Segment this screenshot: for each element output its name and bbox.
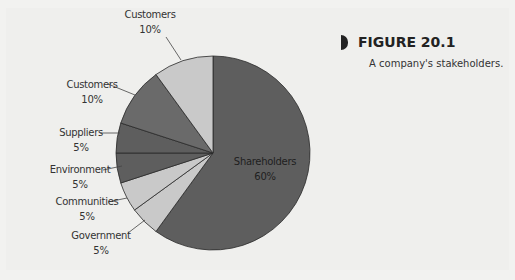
label-name: Customers (120, 7, 180, 22)
label-communities: Communities 5% (52, 194, 122, 224)
label-name: Customers (62, 77, 122, 92)
label-environment: Environment 5% (45, 162, 115, 192)
label-government: Government 5% (66, 228, 136, 258)
label-pct: 5% (52, 209, 122, 224)
label-name: Communities (52, 194, 122, 209)
label-name: Suppliers (56, 125, 106, 140)
label-customers-second: Customers 10% (62, 77, 122, 107)
label-shareholders: Shareholders 60% (230, 154, 300, 184)
label-name: Government (66, 228, 136, 243)
figure-caption: A company's stakeholders. (369, 58, 503, 69)
label-name: Shareholders (230, 154, 300, 169)
label-pct: 10% (62, 92, 122, 107)
label-name: Environment (45, 162, 115, 177)
figure-title: FIGURE 20.1 (358, 34, 455, 50)
label-pct: 60% (230, 169, 300, 184)
label-customers-top: Customers 10% (120, 7, 180, 37)
label-pct: 5% (66, 243, 136, 258)
label-pct: 5% (45, 177, 115, 192)
label-pct: 5% (56, 140, 106, 155)
label-pct: 10% (120, 22, 180, 37)
label-suppliers: Suppliers 5% (56, 125, 106, 155)
pie-slices (116, 56, 310, 250)
